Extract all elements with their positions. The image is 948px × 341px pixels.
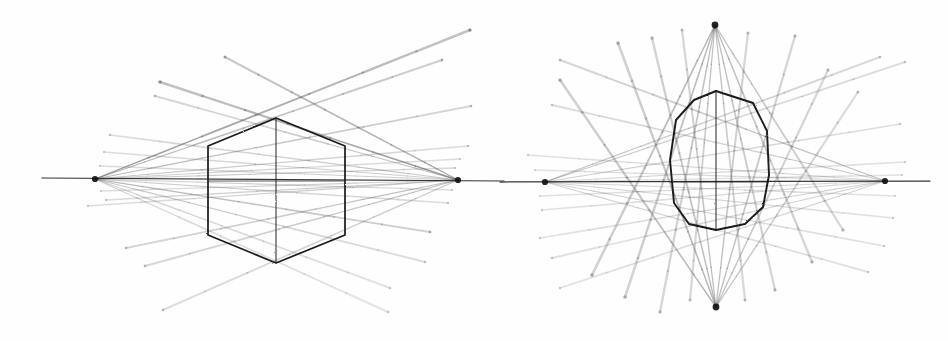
ray-tip	[429, 231, 432, 234]
ray-tip	[99, 165, 101, 167]
ray-tip	[103, 151, 105, 153]
ray-tip	[467, 145, 469, 147]
ray-tip	[100, 190, 102, 192]
ray-tip	[856, 90, 859, 93]
ray-tip	[447, 202, 449, 204]
ray-tip	[387, 311, 390, 314]
ray-tip	[158, 80, 162, 84]
ray-tip	[125, 247, 128, 250]
ray-tip	[590, 273, 594, 277]
left-vanishing-point	[542, 179, 548, 185]
ray-tip	[424, 261, 427, 264]
ray-tip	[539, 237, 541, 239]
ray-tip	[616, 41, 620, 45]
ray-tip	[680, 28, 683, 31]
ray-tip	[904, 61, 907, 64]
ray-tip	[658, 310, 661, 313]
left-vanishing-point	[92, 176, 98, 182]
ray-tip	[389, 287, 392, 290]
ray-tip	[867, 271, 870, 274]
ray-tip	[899, 123, 901, 125]
ray-tip	[746, 31, 749, 34]
figure-board	[0, 0, 948, 341]
ray-tip	[773, 288, 776, 291]
ray-tip	[454, 167, 456, 169]
ray-tip	[527, 154, 529, 156]
ray-tip	[223, 55, 226, 58]
ray-tip	[539, 195, 541, 197]
ray-tip	[468, 28, 471, 31]
ray-tip	[441, 59, 444, 62]
ray-tip	[144, 265, 147, 268]
ray-tip	[826, 68, 829, 71]
top-vanishing-point	[712, 22, 719, 29]
ray-tip	[559, 59, 562, 62]
ray-tip	[551, 257, 554, 260]
ray-tip	[883, 245, 885, 247]
bottom-vanishing-point	[713, 304, 720, 311]
ray-tip	[541, 209, 543, 211]
ray-tip	[841, 228, 844, 231]
ray-tip	[901, 174, 903, 176]
ray-tip	[109, 134, 111, 136]
ray-tip	[105, 199, 107, 201]
ray-tip	[559, 287, 562, 290]
ray-tip	[892, 217, 894, 219]
ray-tip	[154, 95, 157, 98]
ray-tip	[904, 161, 906, 163]
perspective-diagram-canvas	[0, 0, 948, 341]
ray-tip	[894, 195, 896, 197]
right-vanishing-point	[455, 177, 461, 183]
ray-tip	[623, 295, 627, 299]
ray-tip	[87, 205, 89, 207]
ray-tip	[470, 105, 473, 108]
ray-tip	[534, 169, 536, 171]
right-vanishing-point	[882, 178, 888, 184]
ray-tip	[810, 260, 813, 263]
ray-tip	[451, 189, 453, 191]
ray-tip	[688, 298, 691, 301]
ray-tip	[162, 309, 165, 312]
ray-tip	[743, 298, 746, 301]
ray-tip	[551, 104, 554, 107]
ray-tip	[459, 158, 461, 160]
ray-tip	[793, 34, 796, 37]
ray-tip	[879, 56, 882, 59]
ray-tip	[650, 36, 653, 39]
ray-tip	[558, 78, 562, 82]
